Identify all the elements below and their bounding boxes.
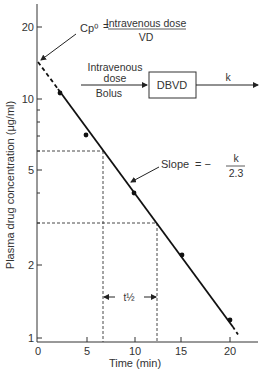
svg-text:Intravenous dose: Intravenous dose [106, 17, 187, 29]
svg-text:20: 20 [224, 345, 236, 357]
svg-text:5: 5 [28, 164, 34, 176]
svg-text:5: 5 [84, 345, 90, 357]
svg-text:= −: = − [195, 158, 211, 170]
svg-text:VD: VD [139, 31, 154, 43]
x-axis-label: Time (min) [109, 357, 161, 369]
svg-text:2: 2 [28, 259, 34, 271]
x-tick-labels: 0 5 10 15 20 [35, 345, 236, 357]
svg-text:DBVD: DBVD [157, 79, 188, 91]
svg-text:Slope: Slope [161, 158, 189, 170]
svg-text:10: 10 [22, 93, 34, 105]
svg-text:t½: t½ [123, 292, 135, 303]
svg-text:10: 10 [129, 345, 141, 357]
y-tick-labels: 20 10 5 2 1 [22, 21, 34, 344]
slope-annotation: Slope = − k 2.3 [131, 152, 245, 182]
svg-text:2.3: 2.3 [229, 167, 244, 179]
svg-text:15: 15 [175, 345, 187, 357]
half-life-guides [37, 151, 157, 342]
pharmacokinetic-chart: 20 10 5 2 1 0 5 10 15 20 Time (min) Plas… [0, 0, 263, 369]
one-compartment-model: Intravenous dose Bolus DBVD k [81, 61, 258, 99]
y-axis-label: Plasma drug concentration (μg/ml) [4, 101, 16, 269]
svg-text:1: 1 [28, 332, 34, 344]
fit-line [38, 62, 239, 336]
svg-text:dose: dose [104, 72, 127, 84]
half-life-marker: t½ [104, 292, 156, 303]
svg-text:Cp⁰: Cp⁰ [80, 22, 99, 34]
svg-text:20: 20 [22, 21, 34, 33]
cp0-annotation: Cp⁰ = Intravenous dose VD [41, 17, 186, 60]
svg-text:0: 0 [35, 345, 41, 357]
svg-text:k: k [225, 71, 231, 83]
svg-text:k: k [233, 152, 239, 164]
svg-text:Bolus: Bolus [96, 87, 122, 99]
